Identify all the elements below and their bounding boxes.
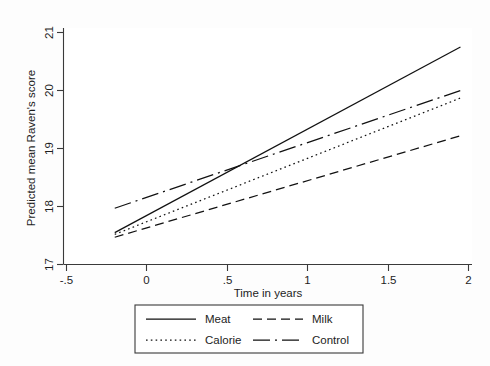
y-tick-label-20: 20 (43, 84, 55, 97)
chart-figure: 21 20 19 18 17 Predicted mean Raven's sc… (0, 0, 490, 366)
x-tick-label-1: 1 (304, 274, 310, 286)
raven-score-line-chart: 21 20 19 18 17 Predicted mean Raven's sc… (0, 0, 490, 366)
legend-label-calorie: Calorie (205, 334, 241, 346)
x-tick-label-2: 2 (465, 274, 471, 286)
x-axis-title: Time in years (234, 287, 303, 299)
y-tick-label-17: 17 (43, 258, 55, 271)
x-tick-label-neg-half: -.5 (60, 274, 73, 286)
y-tick-label-18: 18 (43, 200, 55, 213)
y-tick-label-21: 21 (43, 26, 55, 39)
x-tick-label-half: .5 (223, 274, 233, 286)
legend-label-milk: Milk (312, 313, 333, 325)
y-tick-label-19: 19 (43, 142, 55, 155)
y-axis-title: Predicted mean Raven's score (25, 70, 37, 226)
plot-background (63, 28, 472, 264)
chart-legend: Meat Calorie Milk Control (135, 305, 363, 353)
legend-label-control: Control (312, 334, 349, 346)
x-tick-label-0: 0 (143, 274, 149, 286)
legend-label-meat: Meat (205, 313, 231, 325)
x-tick-label-1-5: 1.5 (381, 274, 397, 286)
